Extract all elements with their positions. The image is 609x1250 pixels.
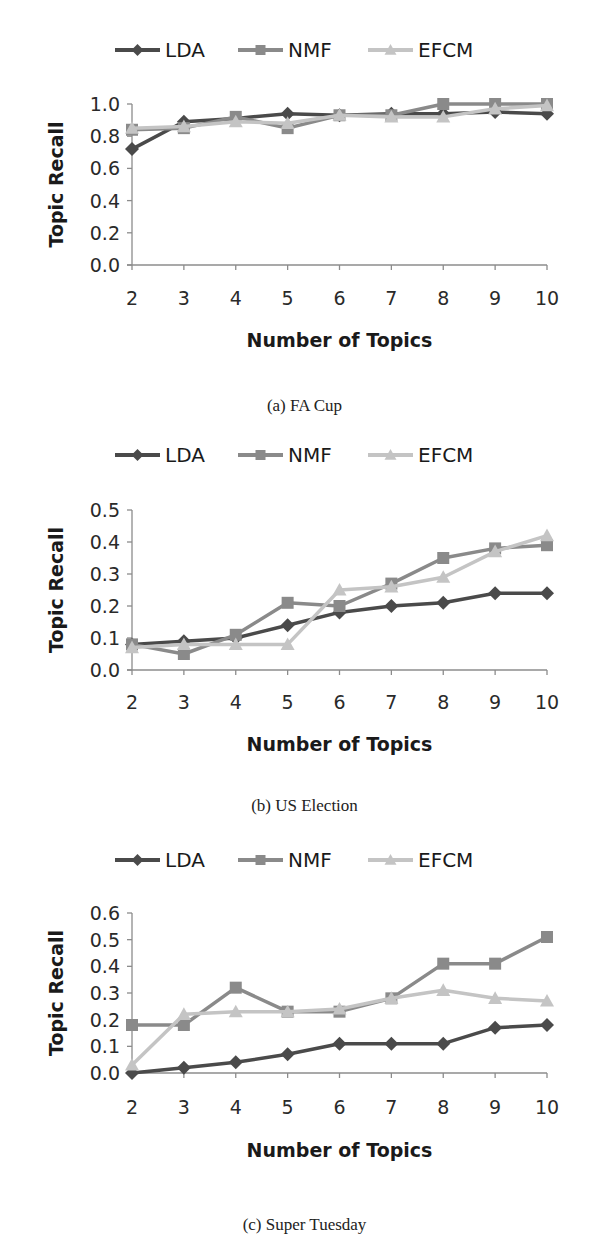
diamond-data-point-icon: [540, 1018, 554, 1032]
line-chart-super-tuesday: LDANMFEFCM0.00.10.20.30.40.50.6234567891…: [0, 0, 609, 1250]
chart-panel-super-tuesday: LDANMFEFCM0.00.10.20.30.40.50.6234567891…: [0, 0, 609, 1250]
diamond-data-point-icon: [384, 1037, 398, 1051]
x-tick-label: 2: [126, 1096, 138, 1118]
diamond-data-point-icon: [333, 1037, 347, 1051]
series-nmf: [126, 931, 553, 1031]
diamond-data-point-icon: [281, 1047, 295, 1061]
y-tick-label: 0.1: [90, 1035, 120, 1057]
x-tick-label: 6: [333, 1096, 345, 1118]
x-tick-label: 5: [282, 1096, 294, 1118]
square-data-point-icon: [489, 958, 501, 970]
x-tick-label: 10: [535, 1096, 559, 1118]
y-tick-label: 0.2: [90, 1009, 120, 1031]
x-tick-label: 3: [178, 1096, 190, 1118]
legend-item-lda: LDA: [115, 848, 205, 872]
square-data-point-icon: [126, 1019, 138, 1031]
caption-super-tuesday: (c) Super Tuesday: [0, 1215, 609, 1235]
diamond-marker-icon: [132, 854, 144, 866]
legend-label: LDA: [165, 848, 205, 872]
legend-label: EFCM: [418, 848, 473, 872]
legend-label: NMF: [288, 848, 332, 872]
legend-item-nmf: NMF: [238, 848, 332, 872]
diamond-data-point-icon: [436, 1037, 450, 1051]
legend: LDANMFEFCM: [115, 848, 473, 872]
x-tick-label: 7: [385, 1096, 397, 1118]
square-data-point-icon: [230, 982, 242, 994]
y-tick-label: 0.3: [90, 982, 120, 1004]
legend-item-efcm: EFCM: [368, 848, 473, 872]
diamond-data-point-icon: [229, 1055, 243, 1069]
x-tick-label: 8: [437, 1096, 449, 1118]
x-tick-label: 4: [230, 1096, 242, 1118]
square-marker-icon: [256, 855, 266, 865]
square-data-point-icon: [437, 958, 449, 970]
y-tick-label: 0.5: [90, 929, 120, 951]
x-axis-title: Number of Topics: [247, 1139, 433, 1161]
x-tick-label: 9: [489, 1096, 501, 1118]
y-axis-title: Topic Recall: [45, 930, 67, 1056]
diamond-data-point-icon: [488, 1021, 502, 1035]
y-tick-label: 0.4: [90, 955, 120, 977]
y-tick-label: 0.0: [90, 1062, 120, 1084]
y-tick-label: 0.6: [90, 902, 120, 924]
square-data-point-icon: [541, 931, 553, 943]
